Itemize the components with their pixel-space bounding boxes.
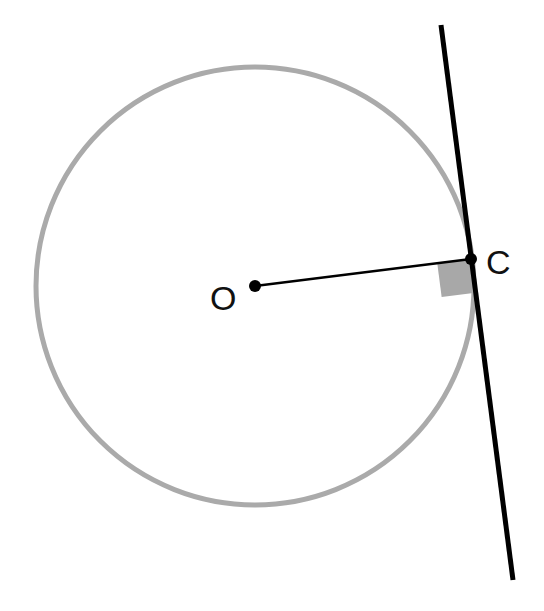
geometry-diagram: O C: [0, 0, 544, 611]
background: [0, 0, 544, 611]
label-o: O: [210, 279, 236, 317]
label-c: C: [486, 243, 511, 281]
point-c: [465, 253, 477, 265]
point-o: [249, 280, 261, 292]
